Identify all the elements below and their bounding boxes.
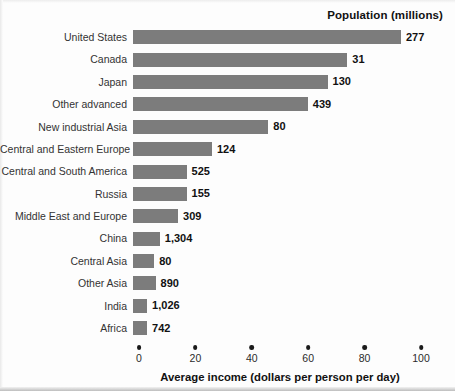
category-label: Russia bbox=[0, 189, 133, 200]
category-label: New industrial Asia bbox=[0, 122, 133, 133]
x-axis-tick: 20 bbox=[190, 345, 202, 363]
bar-area: 525 bbox=[133, 160, 455, 182]
population-value-label: 439 bbox=[313, 99, 331, 110]
bar bbox=[133, 321, 147, 335]
bar-area: 1,304 bbox=[133, 228, 455, 250]
bar bbox=[133, 254, 154, 268]
bar bbox=[133, 75, 328, 89]
bar bbox=[133, 187, 187, 201]
bar-row: Central Asia80 bbox=[0, 250, 455, 272]
bar bbox=[133, 30, 401, 44]
bar-area: 890 bbox=[133, 272, 455, 294]
x-axis-tick: 60 bbox=[302, 345, 314, 363]
category-label: China bbox=[0, 233, 133, 244]
page-edge-top bbox=[0, 0, 455, 3]
bar bbox=[133, 299, 147, 313]
population-column-header: Population (millions) bbox=[327, 9, 443, 21]
bar-area: 1,026 bbox=[133, 295, 455, 317]
bar-rows: United States277Canada31Japan130Other ad… bbox=[0, 26, 455, 339]
bar bbox=[133, 165, 187, 179]
population-value-label: 525 bbox=[192, 166, 210, 177]
population-value-label: 130 bbox=[333, 76, 351, 87]
bar-row: China1,304 bbox=[0, 228, 455, 250]
bar-area: 309 bbox=[133, 205, 455, 227]
bar-row: Japan130 bbox=[0, 71, 455, 93]
chart-container: Population (millions) United States277Ca… bbox=[0, 0, 455, 391]
bar bbox=[133, 142, 212, 156]
tick-label: 60 bbox=[302, 353, 314, 364]
category-label: Other Asia bbox=[0, 278, 133, 289]
bar-row: New industrial Asia80 bbox=[0, 116, 455, 138]
bar-row: Middle East and Europe309 bbox=[0, 205, 455, 227]
category-label: Central and Eastern Europe bbox=[0, 144, 133, 155]
bar-row: Russia155 bbox=[0, 183, 455, 205]
population-value-label: 80 bbox=[159, 256, 171, 267]
population-value-label: 31 bbox=[352, 54, 364, 65]
tick-dot-icon bbox=[193, 345, 198, 350]
x-axis-tick: 100 bbox=[412, 345, 430, 363]
bar-row: Other advanced439 bbox=[0, 93, 455, 115]
bar bbox=[133, 232, 160, 246]
bar-area: 80 bbox=[133, 116, 455, 138]
population-value-label: 1,304 bbox=[165, 233, 193, 244]
x-axis-tick: 80 bbox=[359, 345, 371, 363]
category-label: Central Asia bbox=[0, 256, 133, 267]
bar-area: 130 bbox=[133, 71, 455, 93]
x-axis-title: Average income (dollars per person per d… bbox=[139, 371, 421, 383]
bar-row: Central and Eastern Europe124 bbox=[0, 138, 455, 160]
tick-label: 40 bbox=[246, 353, 258, 364]
category-label: India bbox=[0, 301, 133, 312]
bar bbox=[133, 53, 347, 67]
tick-dot-icon bbox=[419, 345, 424, 350]
population-value-label: 742 bbox=[152, 323, 170, 334]
category-label: Central and South America bbox=[0, 166, 133, 177]
category-label: Middle East and Europe bbox=[0, 211, 133, 222]
tick-label: 80 bbox=[359, 353, 371, 364]
population-value-label: 309 bbox=[183, 211, 201, 222]
bar-area: 31 bbox=[133, 48, 455, 70]
x-axis-tick: 40 bbox=[246, 345, 258, 363]
x-axis: 020406080100 Average income (dollars per… bbox=[0, 345, 455, 391]
bar bbox=[133, 97, 308, 111]
bar-area: 742 bbox=[133, 317, 455, 339]
tick-dot-icon bbox=[137, 345, 142, 350]
category-label: Canada bbox=[0, 54, 133, 65]
tick-label: 100 bbox=[412, 353, 430, 364]
category-label: Other advanced bbox=[0, 99, 133, 110]
bar-area: 439 bbox=[133, 93, 455, 115]
tick-label: 20 bbox=[190, 353, 202, 364]
bar-row: Other Asia890 bbox=[0, 272, 455, 294]
bar-area: 277 bbox=[133, 26, 455, 48]
category-label: United States bbox=[0, 32, 133, 43]
population-value-label: 1,026 bbox=[152, 300, 180, 311]
bar-row: Africa742 bbox=[0, 317, 455, 339]
tick-dot-icon bbox=[306, 345, 311, 350]
bar-row: India1,026 bbox=[0, 295, 455, 317]
tick-dot-icon bbox=[362, 345, 367, 350]
category-label: Africa bbox=[0, 323, 133, 334]
bar-area: 124 bbox=[133, 138, 455, 160]
population-value-label: 124 bbox=[217, 144, 235, 155]
bar bbox=[133, 276, 156, 290]
bar-area: 80 bbox=[133, 250, 455, 272]
population-value-label: 80 bbox=[273, 121, 285, 132]
bar-row: United States277 bbox=[0, 26, 455, 48]
population-value-label: 890 bbox=[161, 278, 179, 289]
bar-row: Canada31 bbox=[0, 48, 455, 70]
bar bbox=[133, 120, 268, 134]
tick-label: 0 bbox=[136, 353, 142, 364]
population-value-label: 277 bbox=[406, 32, 424, 43]
bar-row: Central and South America525 bbox=[0, 160, 455, 182]
bar bbox=[133, 209, 178, 223]
x-axis-tick: 0 bbox=[136, 345, 142, 363]
tick-dot-icon bbox=[250, 345, 255, 350]
bar-area: 155 bbox=[133, 183, 455, 205]
population-value-label: 155 bbox=[192, 188, 210, 199]
category-label: Japan bbox=[0, 77, 133, 88]
